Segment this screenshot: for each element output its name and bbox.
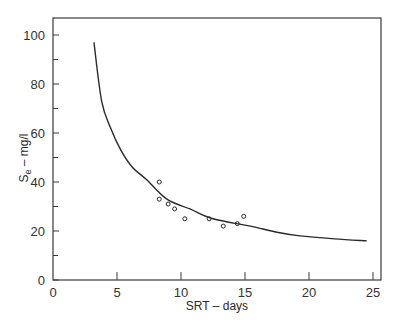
y-tick-label: 60 [31, 126, 45, 141]
y-tick-label: 80 [31, 77, 45, 92]
x-tick-label: 25 [366, 285, 380, 300]
x-tick-label: 0 [49, 285, 56, 300]
y-tick-label: 40 [31, 175, 45, 190]
data-point-marker [183, 217, 187, 221]
y-tick-label: 0 [38, 273, 45, 288]
data-point-marker [157, 197, 161, 201]
y-axis-title: Se – mg/l [17, 133, 33, 182]
data-point-marker [166, 202, 170, 206]
data-point-marker [173, 207, 177, 211]
y-axis-title-main: S [17, 175, 31, 183]
plot-frame [53, 18, 381, 280]
x-axis-title: SRT – days [186, 299, 248, 313]
x-tick-label: 15 [238, 285, 252, 300]
y-axis-title-units: – mg/l [17, 133, 31, 169]
x-tick-label: 20 [302, 285, 316, 300]
data-point-marker [157, 180, 161, 184]
y-tick-label: 100 [23, 28, 45, 43]
model-curve [94, 42, 367, 240]
curve-path [94, 42, 367, 240]
data-point-marker [242, 214, 246, 218]
x-tick-label: 5 [113, 285, 120, 300]
data-points [157, 180, 245, 228]
x-tick-label: 10 [174, 285, 188, 300]
plot-border [53, 18, 381, 280]
data-point-marker [221, 224, 225, 228]
y-tick-label: 20 [31, 224, 45, 239]
x-axis: 0510152025 [49, 272, 380, 300]
chart: 020406080100 0510152025 SRT – days Se – … [0, 0, 400, 323]
